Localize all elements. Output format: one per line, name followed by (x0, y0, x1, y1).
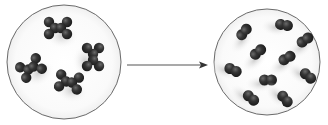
product-panel (206, 9, 320, 115)
atom-icon (44, 29, 54, 39)
diagram-stage (0, 0, 328, 125)
reactant-panel (7, 5, 121, 119)
atom-icon (82, 43, 92, 53)
atom-icon (82, 61, 92, 71)
reaction-diagram (0, 0, 328, 125)
reaction-arrow (127, 62, 208, 69)
atom-icon (62, 29, 72, 39)
